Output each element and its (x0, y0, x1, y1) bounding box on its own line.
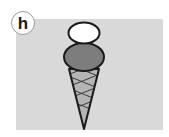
bottom-scoop (64, 43, 104, 71)
top-scoop (69, 23, 100, 44)
figure-label: h (11, 11, 35, 35)
